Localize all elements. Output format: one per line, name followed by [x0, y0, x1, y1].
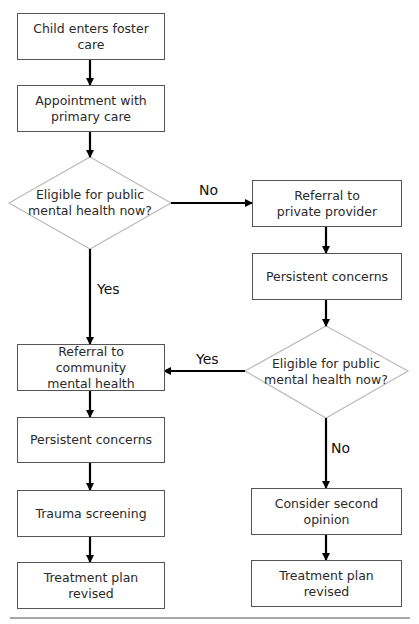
node-second-opinion-label: Consider second opinion: [256, 496, 397, 528]
edge-label-decision2-no: No: [331, 440, 350, 456]
node-private-referral: Referral to private provider: [252, 180, 402, 227]
edge-label-decision1-yes: Yes: [97, 281, 120, 297]
node-left-plan: Treatment plan revised: [17, 562, 165, 609]
node-right-plan-line1: Treatment plan: [279, 568, 374, 584]
node-left-concerns-label: Persistent concerns: [30, 432, 152, 448]
node-right-concerns-label: Persistent concerns: [266, 269, 388, 285]
node-right-concerns: Persistent concerns: [252, 253, 402, 300]
node-primary-care: Appointment with primary care: [17, 85, 165, 132]
node-community-line1: Referral to community: [22, 344, 160, 376]
node-private-line1: Referral to: [294, 188, 360, 204]
node-private-line2: private provider: [277, 204, 377, 220]
node-start: Child enters foster care: [17, 13, 165, 60]
node-start-label: Child enters foster care: [22, 21, 160, 53]
decision2-text: Eligible for public mental health now?: [256, 356, 396, 388]
decision1-line1: Eligible for public: [20, 187, 160, 203]
node-left-plan-line1: Treatment plan: [44, 570, 139, 586]
node-right-plan-line2: revised: [304, 584, 350, 600]
node-right-plan: Treatment plan revised: [251, 560, 402, 607]
node-trauma: Trauma screening: [17, 490, 165, 537]
node-community-line2: mental health: [47, 376, 134, 392]
decision1-text: Eligible for public mental health now?: [20, 187, 160, 219]
node-trauma-label: Trauma screening: [35, 506, 146, 522]
decision2-line2: mental health now?: [256, 372, 396, 388]
edge-label-decision1-no: No: [199, 182, 218, 198]
node-community-referral: Referral to community mental health: [17, 344, 165, 391]
node-primary-care-line1: Appointment with: [35, 93, 147, 109]
node-primary-care-line2: primary care: [51, 109, 131, 125]
node-left-concerns: Persistent concerns: [17, 417, 165, 463]
decision2-line1: Eligible for public: [256, 356, 396, 372]
edge-label-decision2-yes: Yes: [196, 351, 219, 367]
node-second-opinion: Consider second opinion: [251, 488, 402, 535]
decision1-line2: mental health now?: [20, 203, 160, 219]
node-left-plan-line2: revised: [68, 586, 114, 602]
